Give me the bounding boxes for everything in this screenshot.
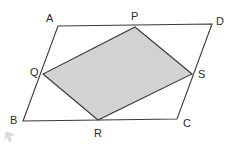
vertex-label-a: A: [46, 13, 53, 24]
vertex-label-c: C: [183, 118, 191, 129]
quadrilateral-pqrs-shaded: [43, 27, 192, 120]
vertex-label-d: D: [216, 16, 224, 27]
cursor-arrow-artifact: [4, 131, 16, 142]
vertex-label-b: B: [10, 115, 17, 126]
vertex-label-r: R: [94, 128, 102, 139]
vertex-label-p: P: [131, 11, 138, 22]
vertex-label-s: S: [198, 69, 205, 80]
geometry-figure: A D C B P S R Q: [0, 0, 237, 147]
vertex-label-q: Q: [30, 67, 39, 78]
